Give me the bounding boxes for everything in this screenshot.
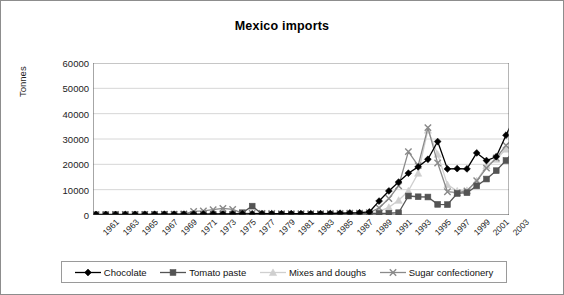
y-axis-label: Tonnes (17, 66, 28, 97)
x-tick-label: 1977 (257, 217, 277, 237)
legend-label: Chocolate (104, 267, 147, 278)
plot-svg (93, 63, 509, 215)
y-tick-label: 30000 (63, 134, 89, 145)
x-tick-label: 1997 (452, 217, 472, 237)
data-point-marker (464, 165, 471, 172)
legend-label: Tomato paste (189, 267, 246, 278)
data-point-marker (464, 190, 470, 196)
x-tick-label: 2003 (511, 217, 531, 237)
data-point-marker (170, 269, 176, 275)
legend-item-mixes-and-doughs[interactable]: Mixes and doughs (260, 267, 366, 278)
data-point-marker (503, 158, 509, 164)
y-tick-label: 10000 (63, 184, 89, 195)
data-point-marker (84, 269, 91, 276)
data-point-marker (474, 183, 480, 189)
data-point-marker (386, 210, 392, 215)
data-point-marker (503, 132, 509, 139)
data-point-marker (454, 191, 460, 197)
x-tick-label: 1995 (432, 217, 452, 237)
data-point-marker (405, 193, 411, 199)
legend-label: Mixes and doughs (289, 267, 366, 278)
data-point-marker (386, 195, 392, 201)
x-tick-label: 1981 (296, 217, 316, 237)
data-point-marker (415, 194, 421, 200)
x-tick-label: 1991 (393, 217, 413, 237)
x-tick-label: 2001 (491, 217, 511, 237)
x-tick-label: 1975 (237, 217, 257, 237)
data-point-marker (249, 203, 255, 209)
y-tick-label: 40000 (63, 108, 89, 119)
x-tick-label: 1963 (120, 217, 140, 237)
x-axis-tick-labels: 1961196319651967196919711973197519771979… (93, 217, 509, 257)
y-tick-label: 50000 (63, 83, 89, 94)
y-axis-tick-labels: 0100002000030000400005000060000 (35, 63, 89, 215)
data-point-marker (425, 194, 431, 200)
chart-title: Mexico imports (1, 19, 563, 33)
data-point-marker (396, 210, 402, 215)
series-tomato-paste (93, 111, 509, 215)
x-tick-label: 1969 (179, 217, 199, 237)
y-tick-label: 60000 (63, 58, 89, 69)
x-tick-label: 1989 (374, 217, 394, 237)
y-tick-label: 20000 (63, 159, 89, 170)
legend-label: Sugar confectionery (409, 267, 494, 278)
x-tick-label: 1987 (354, 217, 374, 237)
y-tick-label: 0 (84, 210, 89, 221)
x-tick-label: 1983 (315, 217, 335, 237)
x-tick-label: 1993 (413, 217, 433, 237)
x-tick-label: 1973 (218, 217, 238, 237)
chart-legend: ChocolateTomato pasteMixes and doughsSug… (61, 261, 507, 283)
x-tick-label: 1961 (101, 217, 121, 237)
legend-item-sugar-confectionery[interactable]: Sugar confectionery (380, 267, 494, 278)
data-point-marker (376, 211, 382, 215)
series-line (96, 79, 509, 214)
legend-key-square-icon (160, 267, 186, 278)
x-tick-label: 1979 (276, 217, 296, 237)
data-point-marker (435, 201, 441, 207)
legend-key-triangle-icon (260, 267, 286, 278)
chart-figure: Mexico imports Tonnes 010000200003000040… (0, 0, 564, 295)
x-tick-label: 1985 (335, 217, 355, 237)
plot-area (93, 63, 509, 215)
legend-item-tomato-paste[interactable]: Tomato paste (160, 267, 246, 278)
x-tick-label: 1967 (159, 217, 179, 237)
data-point-marker (454, 165, 461, 172)
x-tick-label: 1999 (471, 217, 491, 237)
data-point-marker (484, 176, 490, 182)
legend-item-chocolate[interactable]: Chocolate (75, 267, 147, 278)
x-tick-label: 1971 (198, 217, 218, 237)
series-chocolate (93, 76, 509, 215)
data-point-marker (444, 165, 451, 172)
legend-key-diamond-icon (75, 267, 101, 278)
data-point-marker (493, 168, 499, 174)
legend-key-cross-icon (380, 267, 406, 278)
data-point-marker (445, 202, 451, 208)
x-tick-label: 1965 (140, 217, 160, 237)
